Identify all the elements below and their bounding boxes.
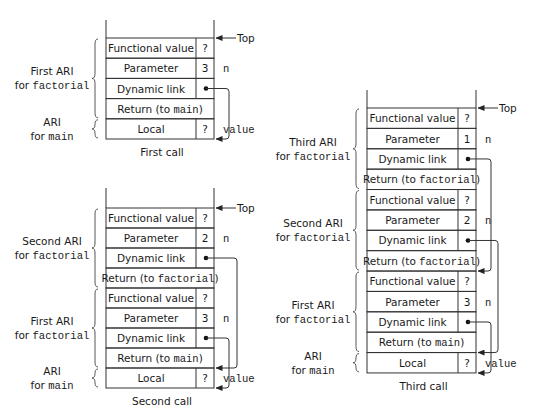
param-name-label: n: [485, 134, 491, 146]
row-label: Functional value: [108, 42, 194, 54]
stack-row: Local?value: [106, 119, 255, 139]
top-label: Top: [498, 102, 517, 114]
ari-label: Second ARI: [22, 235, 82, 247]
row-label: Dynamic link: [117, 83, 186, 95]
row-label: Parameter: [124, 62, 179, 74]
row-value: 1: [464, 133, 471, 145]
row-value: 3: [202, 312, 209, 324]
stack-row: Return (to factorial): [102, 268, 219, 288]
row-value: ?: [464, 194, 470, 206]
ari-for-label: for main: [292, 364, 335, 377]
ari-for-label: for factorial: [276, 150, 351, 163]
row-label: Functional value: [369, 112, 455, 124]
stack-row: Return (to factorial): [363, 169, 480, 189]
activation-record-diagram: Functional value?Parameter3nDynamic link…: [0, 0, 541, 420]
param-name-label: n: [223, 63, 229, 75]
brace-icon: [92, 369, 98, 387]
brace-icon: [353, 191, 359, 271]
brace-icon: [353, 109, 359, 189]
ari-label: ARI: [43, 365, 61, 377]
stack-first-call: Functional value?Parameter3nDynamic link…: [15, 20, 255, 158]
row-label: Parameter: [385, 133, 440, 145]
stack-row: Functional value?: [367, 271, 476, 291]
stack-third-call: Functional value?Parameter1nDynamic link…: [276, 90, 517, 392]
row-label: Functional value: [108, 292, 194, 304]
row-label: Parameter: [124, 312, 179, 324]
stack-row: Return (to factorial): [363, 251, 480, 271]
stack-row: Dynamic link: [106, 328, 214, 348]
row-value: ?: [202, 212, 208, 224]
row-value: ?: [202, 42, 208, 54]
row-label: Local: [137, 372, 164, 384]
ari-label: Second ARI: [283, 217, 343, 229]
row-label: Dynamic link: [378, 234, 447, 246]
ari-label: Third ARI: [288, 136, 337, 148]
row-label: Functional value: [369, 194, 455, 206]
row-label: Parameter: [385, 296, 440, 308]
ari-label: First ARI: [291, 299, 334, 311]
return-row-label: Return (to main): [117, 352, 202, 365]
stack-caption: Second call: [132, 395, 192, 407]
row-value: ?: [202, 292, 208, 304]
return-row-label: Return (to main): [117, 103, 202, 116]
stack-row: Parameter3n: [106, 58, 229, 78]
stack-row: Functional value?: [367, 190, 476, 210]
stack-row: Functional value?: [367, 108, 476, 128]
row-label: Parameter: [124, 232, 179, 244]
ari-for-label: for factorial: [276, 231, 351, 244]
ari-for-label: for main: [31, 130, 74, 143]
stack-row: Functional value?: [106, 38, 214, 58]
ari-label: ARI: [43, 116, 61, 128]
param-name-label: n: [485, 215, 491, 227]
row-label: Dynamic link: [378, 316, 447, 328]
return-row-label: Return (to factorial): [102, 272, 219, 285]
row-value: 2: [464, 214, 471, 226]
stack-row: Dynamic link: [367, 149, 476, 169]
row-value: ?: [202, 372, 208, 384]
stack-row: Parameter3n: [106, 308, 229, 328]
stack-row: Parameter3n: [367, 291, 491, 311]
stack-caption: First call: [140, 146, 183, 158]
stack-second-call: Functional value?Parameter2nDynamic link…: [15, 188, 255, 407]
stack-row: Return (to main): [367, 332, 476, 352]
brace-icon: [92, 289, 98, 367]
ari-label: First ARI: [30, 65, 73, 77]
row-label: Functional value: [108, 212, 194, 224]
stack-row: Return (to main): [106, 348, 214, 368]
param-name-label: n: [485, 297, 491, 309]
row-label: Dynamic link: [378, 153, 447, 165]
top-label: Top: [236, 202, 255, 214]
row-label: Dynamic link: [117, 332, 186, 344]
param-name-label: n: [223, 233, 229, 245]
ari-for-label: for main: [31, 379, 74, 392]
brace-icon: [353, 272, 359, 352]
row-label: Parameter: [385, 214, 440, 226]
return-row-label: Return (to factorial): [363, 173, 480, 186]
row-value: ?: [202, 123, 208, 135]
brace-icon: [353, 354, 359, 372]
row-value: ?: [464, 112, 470, 124]
row-label: Local: [399, 357, 426, 369]
stack-row: Local?value: [106, 368, 255, 388]
return-row-label: Return (to factorial): [363, 255, 480, 268]
stack-row: Functional value?: [106, 208, 214, 228]
ari-for-label: for factorial: [276, 313, 351, 326]
ari-label: First ARI: [30, 315, 73, 327]
row-value: 3: [202, 62, 209, 74]
row-value: 3: [464, 296, 471, 308]
stack-row: Dynamic link: [367, 312, 476, 332]
brace-icon: [92, 120, 98, 138]
brace-icon: [92, 209, 98, 287]
stack-row: Dynamic link: [367, 230, 476, 250]
stack-row: Parameter1n: [367, 128, 491, 148]
stack-row: Parameter2n: [106, 228, 229, 248]
top-label: Top: [236, 32, 255, 44]
ari-for-label: for factorial: [15, 79, 90, 92]
param-name-label: n: [223, 313, 229, 325]
stack-row: Functional value?: [106, 288, 214, 308]
stack-row: Dynamic link: [106, 248, 214, 268]
row-label: Functional value: [369, 275, 455, 287]
value-label: value: [223, 373, 255, 385]
return-row-label: Return (to main): [379, 336, 464, 349]
stack-row: Local?value: [367, 353, 517, 373]
